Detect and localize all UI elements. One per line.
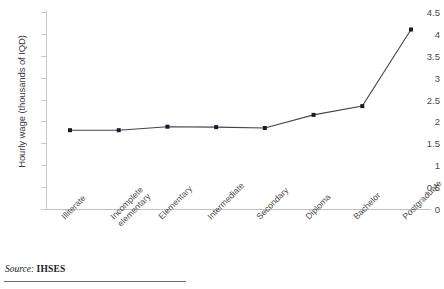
data-point-marker — [360, 104, 364, 108]
data-point-marker — [409, 28, 413, 32]
data-point-marker — [165, 125, 169, 129]
data-series-svg — [0, 0, 440, 248]
series-line — [70, 30, 411, 131]
data-point-marker — [68, 128, 72, 132]
source-value: IHSES — [37, 264, 66, 274]
data-point-marker — [312, 113, 316, 117]
chart-plot-area: Hourly wage (thousands of IQD) 00.511.52… — [0, 0, 440, 248]
data-point-marker — [263, 126, 267, 130]
source-note: Source: IHSES — [5, 264, 66, 274]
data-point-marker — [117, 128, 121, 132]
series-markers — [68, 28, 413, 133]
source-label: Source: — [5, 264, 34, 274]
source-divider — [4, 281, 186, 282]
data-point-marker — [214, 125, 218, 129]
